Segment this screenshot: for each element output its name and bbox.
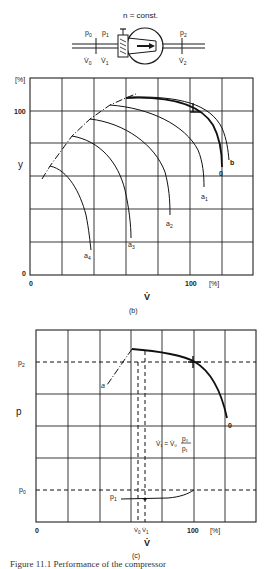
formula-lhs: V̇₁ = V̇₀ [156,440,177,447]
chart-c-dashed [36,351,256,522]
svg-text:p0: p0 [85,29,92,38]
curve-0 [126,98,222,167]
svg-text:p2: p2 [180,29,187,38]
x-axis-label: V̇ [144,292,150,302]
formula-numerator: p₀ [182,435,189,443]
curve-p1 [121,490,194,499]
x-unit-label-c: [%] [210,527,220,535]
figure-caption: Figure 11.1 Performance of the compresso… [10,559,166,569]
x-tick-100: 100 [185,280,197,287]
chart-c-grid [36,330,256,522]
svg-text:V̇2: V̇2 [179,57,187,66]
y-unit-label: [%] [15,76,25,84]
chart-b-curves [42,94,229,250]
curve-a3 [72,136,131,238]
svg-text:a2: a2 [166,220,173,229]
svg-text:p0: p0 [19,486,26,495]
y-axis-label: y [18,159,23,170]
svg-text:p1: p1 [110,493,117,502]
curve-a4 [50,166,91,250]
svg-text:V̇0: V̇0 [84,57,92,66]
curve-0-c [132,349,227,418]
figure-canvas: n = const. p0 p1 p2 V̇0 V̇1 V̇2 [0,0,270,569]
flow-arrow-icon [149,43,155,49]
x-tick-0-c: 0 [35,527,39,534]
curve-a-line [107,349,132,385]
x-axis-label-c: V̇ [144,538,150,548]
y-axis-label-p: p [16,406,22,417]
svg-text:V̇1: V̇1 [142,527,149,535]
x-tick-100-c: 100 [187,527,199,534]
p1-point [143,497,146,500]
formula-denominator: p₁ [182,445,189,453]
chart-c-curves [107,349,227,501]
chart-c-labels: p2 p p0 p1 a 0 V̇₁ = V̇₀ p₀ p₁ 0 V̇0 V̇1… [16,359,232,560]
svg-text:V̇1: V̇1 [101,57,109,66]
design-point-mark [188,356,201,368]
y-tick-100: 100 [14,108,26,115]
y-tick-0: 0 [22,270,26,277]
curve-a-label: a [101,382,105,389]
svg-text:a4: a4 [84,252,91,261]
x-unit-label: [%] [209,280,219,288]
x-tick-0: 0 [29,280,33,287]
svg-text:a1: a1 [201,193,208,202]
panel-label-b: (b) [129,307,138,315]
svg-text:p2: p2 [18,359,25,368]
svg-text:p1: p1 [102,29,109,38]
throttle-valve-icon [118,35,128,57]
curve-0-label: 0 [219,170,223,177]
curve-0-label-c: 0 [228,422,232,429]
svg-text:V̇0: V̇0 [134,527,141,535]
n-const-label: n = const. [123,11,158,20]
curve-b-label: b [230,159,234,166]
